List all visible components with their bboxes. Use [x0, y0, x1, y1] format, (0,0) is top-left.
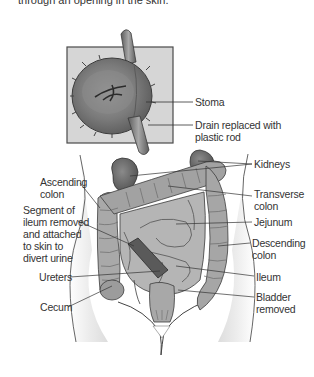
label-drain-line2: plastic rod	[195, 131, 241, 143]
label-transverse-colon-2: colon	[254, 200, 278, 212]
label-ileum: Ileum	[256, 271, 281, 283]
label-ascending-colon-1: Ascending	[40, 176, 87, 188]
label-segment-3: and attached	[23, 228, 81, 240]
label-descending-colon-1: Descending	[252, 237, 305, 249]
label-segment-2: ileum removed	[23, 216, 89, 228]
label-segment-5: divert urine	[23, 252, 73, 264]
label-cecum: Cecum	[40, 301, 72, 313]
inset-stoma-closeup	[67, 30, 193, 155]
label-jejunum: Jejunum	[254, 216, 292, 228]
label-bladder-removed-2: removed	[256, 303, 295, 315]
label-transverse-colon-1: Transverse	[254, 188, 304, 200]
label-bladder-removed-1: Bladder	[256, 291, 291, 303]
label-ascending-colon-2: colon	[40, 188, 64, 200]
label-descending-colon-2: colon	[252, 249, 276, 261]
label-drain-line1: Drain replaced with	[195, 119, 281, 131]
label-stoma: Stoma	[195, 96, 224, 108]
label-ureters: Ureters	[39, 271, 72, 283]
label-segment-4: to skin to	[23, 240, 63, 252]
label-segment-1: Segment of	[23, 204, 75, 216]
label-kidneys: Kidneys	[254, 158, 290, 170]
